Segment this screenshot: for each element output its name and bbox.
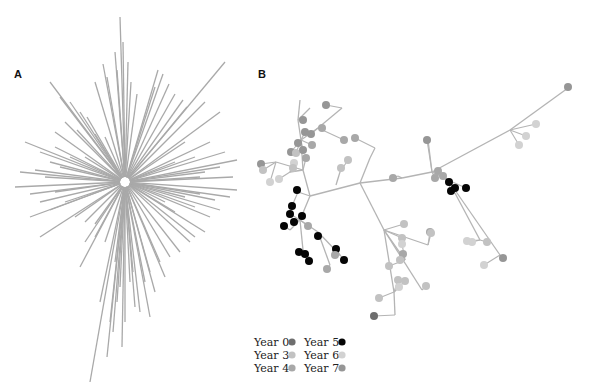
tree-branch bbox=[130, 152, 225, 181]
tree-tip-node bbox=[398, 240, 406, 248]
legend-item-year-5: Year 5 bbox=[303, 336, 346, 349]
tree-branch bbox=[127, 84, 169, 177]
legend-item-year-0: Year 0 bbox=[253, 336, 296, 349]
tree-tip-node bbox=[389, 174, 397, 182]
tree-tip-node bbox=[305, 257, 313, 265]
tree-tip-node bbox=[445, 178, 453, 186]
tree-branch bbox=[384, 230, 428, 245]
tree-tip-node bbox=[266, 178, 274, 186]
tree-tip-node bbox=[280, 222, 288, 230]
tree-tip-node bbox=[302, 154, 310, 162]
tree-tip-node bbox=[427, 229, 435, 237]
panel-b-label: B bbox=[258, 68, 266, 80]
tree-tip-node bbox=[290, 218, 298, 226]
tree-tip-node bbox=[395, 283, 403, 291]
tree-tip-node bbox=[299, 146, 307, 154]
legend-item-year-4: Year 4 bbox=[253, 362, 296, 375]
tree-tip-node bbox=[340, 136, 348, 144]
tree-tip-node bbox=[275, 175, 283, 183]
tree-tip-node bbox=[299, 116, 307, 124]
tree-tip-node bbox=[462, 184, 470, 192]
tree-tip-node bbox=[480, 261, 488, 269]
tree-tip-node bbox=[375, 294, 383, 302]
legend-swatch-icon bbox=[288, 351, 295, 358]
tree-tip-node bbox=[294, 139, 302, 147]
tree-tip-node bbox=[292, 149, 300, 157]
tree-tip-node bbox=[289, 164, 297, 172]
tree-tip-node bbox=[515, 141, 523, 149]
tree-tip-node bbox=[451, 184, 459, 192]
legend-item-year-3: Year 3 bbox=[253, 349, 296, 362]
tree-tip-node bbox=[423, 136, 431, 144]
legend: Year 0 Year 3 Year 4 Year 5 Year 6 Year … bbox=[253, 336, 346, 375]
tree-branch bbox=[336, 172, 340, 185]
tree-tip-node bbox=[259, 166, 267, 174]
tree-tip-node bbox=[385, 262, 393, 270]
tree-tip-node bbox=[522, 132, 530, 140]
legend-swatch-icon bbox=[338, 351, 345, 358]
tree-branch bbox=[402, 172, 432, 178]
tree-tip-node bbox=[331, 251, 339, 259]
tree-tip-node bbox=[499, 254, 507, 262]
tree-tip-node bbox=[304, 222, 312, 230]
panel-a-radial-tree bbox=[15, 17, 237, 382]
tree-branch bbox=[360, 158, 370, 183]
tree-tip-node bbox=[532, 120, 540, 128]
legend-swatch-icon bbox=[288, 364, 295, 371]
tree-tip-node bbox=[308, 141, 316, 149]
tree-tip-node bbox=[293, 186, 301, 194]
tree-branch bbox=[384, 230, 394, 292]
tree-tip-node bbox=[394, 276, 402, 284]
tree-branch bbox=[427, 140, 432, 172]
tree-tip-node bbox=[400, 220, 408, 228]
tree-branch bbox=[398, 176, 402, 178]
tree-tip-node bbox=[318, 124, 326, 132]
tree-tip-node bbox=[351, 134, 359, 142]
legend-label: Year 7 bbox=[303, 362, 339, 375]
tree-tip-node bbox=[288, 202, 296, 210]
legend-item-year-6: Year 6 bbox=[303, 349, 346, 362]
tree-tip-node bbox=[301, 250, 309, 258]
legend-label: Year 6 bbox=[303, 349, 339, 362]
tree-tip-node bbox=[370, 312, 378, 320]
tree-tip-node bbox=[340, 256, 348, 264]
legend-swatch-icon bbox=[338, 364, 345, 371]
legend-label: Year 4 bbox=[253, 362, 289, 375]
tree-tip-node bbox=[439, 172, 447, 180]
tree-tip-node bbox=[401, 277, 409, 285]
legend-swatch-icon bbox=[288, 338, 295, 345]
legend-label: Year 0 bbox=[253, 336, 289, 349]
tree-tip-node bbox=[307, 130, 315, 138]
tree-tip-node bbox=[422, 282, 430, 290]
figure-canvas: A B Year 0 Year 3 Year 4 Year 5 Year 6 Y… bbox=[0, 0, 592, 387]
tree-tip-node bbox=[314, 232, 322, 240]
tree-branch bbox=[310, 183, 360, 196]
tree-tip-node bbox=[286, 210, 294, 218]
tree-tip-node bbox=[468, 238, 476, 246]
tree-branch bbox=[303, 170, 310, 196]
tree-branch bbox=[394, 292, 395, 315]
tree-branch bbox=[432, 130, 510, 172]
legend-item-year-7: Year 7 bbox=[303, 362, 346, 375]
tree-tip-node bbox=[431, 174, 439, 182]
tree-branch bbox=[298, 100, 300, 120]
tree-tip-node bbox=[323, 265, 331, 273]
tree-branch bbox=[370, 148, 375, 158]
legend-label: Year 3 bbox=[253, 349, 289, 362]
legend-swatch-icon bbox=[338, 338, 345, 345]
tree-tip-node bbox=[322, 101, 330, 109]
tree-tip-node bbox=[564, 83, 572, 91]
tree-branch bbox=[128, 100, 183, 178]
tree-tip-node bbox=[483, 238, 491, 246]
tree-branch bbox=[360, 183, 384, 230]
tree-tip-node bbox=[396, 256, 404, 264]
tree-tip-node bbox=[337, 164, 345, 172]
tree-branch bbox=[300, 220, 303, 250]
legend-label: Year 5 bbox=[303, 336, 339, 349]
panel-b-tree-branches bbox=[261, 88, 568, 316]
tree-tip-node bbox=[344, 156, 352, 164]
tree-tip-node bbox=[298, 212, 306, 220]
panel-a-label: A bbox=[14, 68, 22, 80]
